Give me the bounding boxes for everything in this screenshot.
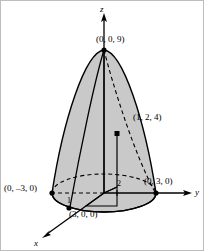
axis-label-y: y (195, 188, 199, 197)
axis-label-z: z (100, 5, 104, 14)
dot-apex (101, 47, 106, 52)
label-apex-point: (0, 0, 9) (96, 35, 125, 44)
figure-container: (0, 0, 9) (1, 2, 4) (0, –3, 0) (0, 3, 0)… (0, 0, 204, 251)
label-interior-point: (1, 2, 4) (133, 113, 162, 122)
label-y-positive-intercept: (0, 3, 0) (144, 177, 173, 186)
dot-y-negative (49, 190, 54, 195)
label-y-negative-intercept: (0, –3, 0) (4, 184, 37, 193)
x-axis-arrow (42, 230, 51, 238)
dot-y-positive (153, 190, 158, 195)
point-marker-1-2-4 (115, 131, 120, 136)
axis-label-x: x (34, 239, 38, 248)
label-x-intercept: (3, 0, 0) (69, 210, 98, 219)
tick-label-y-2: 2 (117, 180, 121, 188)
tick-label-x-1: 1 (67, 197, 71, 205)
